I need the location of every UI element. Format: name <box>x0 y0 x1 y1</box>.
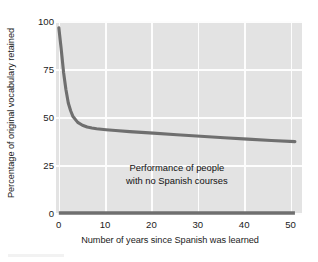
page-artifact <box>8 254 64 257</box>
y-tick-100: 100 <box>26 17 54 27</box>
x-axis-title: Number of years since Spanish was learne… <box>34 234 306 247</box>
y-tick-75: 75 <box>26 65 54 75</box>
y-tick-25: 25 <box>26 161 54 171</box>
line-vocabulary-retained <box>59 28 295 142</box>
x-tick-50: 50 <box>276 219 306 231</box>
x-tick-10: 10 <box>90 219 120 231</box>
x-tick-20: 20 <box>136 219 166 231</box>
annotation-line-1: Performance of people <box>92 162 262 175</box>
annotation-line-2: with no Spanish courses <box>92 175 262 188</box>
chart-figure: Percentage of original vocabulary retain… <box>0 0 318 262</box>
x-tick-40: 40 <box>229 219 259 231</box>
y-tick-0: 0 <box>26 209 54 219</box>
x-tick-30: 30 <box>183 219 213 231</box>
x-axis-tick-labels: 0 10 20 30 40 50 <box>0 219 318 233</box>
x-tick-0: 0 <box>44 219 74 231</box>
plot-area: Performance of people with no Spanish co… <box>56 22 302 215</box>
no-courses-annotation: Performance of people with no Spanish co… <box>92 162 262 187</box>
y-axis-title: Percentage of original vocabulary retain… <box>4 8 18 218</box>
y-tick-50: 50 <box>26 113 54 123</box>
